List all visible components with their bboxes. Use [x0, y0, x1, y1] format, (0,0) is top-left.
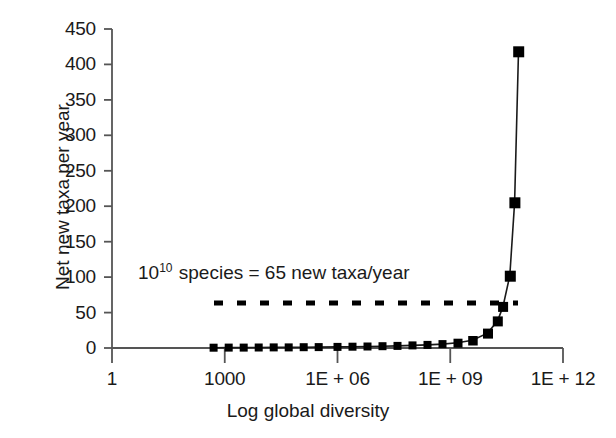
xtick-label-1e06: 1E + 06: [305, 368, 370, 390]
chart-figure: 0 50 100 150 200 250 300 350 400 450 1 1…: [0, 0, 616, 438]
annotation-base: 10: [138, 262, 159, 283]
xtick-label-1e09: 1E + 09: [418, 368, 483, 390]
data-series-net-new-taxa: [210, 46, 525, 351]
ytick-label-0: 0: [38, 337, 96, 359]
annotation-65-taxa: 1010 species = 65 new taxa/year: [138, 262, 411, 284]
annotation-rest: species = 65 new taxa/year: [173, 262, 411, 283]
ytick-label-450: 450: [38, 18, 96, 40]
xtick-label-1: 1: [107, 368, 117, 390]
y-axis-title: Net new taxa per year: [52, 72, 74, 322]
series-markers: [210, 46, 525, 351]
x-axis-title: Log global diversity: [0, 400, 616, 422]
xtick-label-1e12: 1E + 12: [531, 368, 596, 390]
axis-lines: [112, 29, 563, 348]
xtick-label-1000: 1000: [204, 368, 245, 390]
y-axis-ticks: [104, 29, 112, 348]
annotation-exponent: 10: [159, 261, 172, 275]
